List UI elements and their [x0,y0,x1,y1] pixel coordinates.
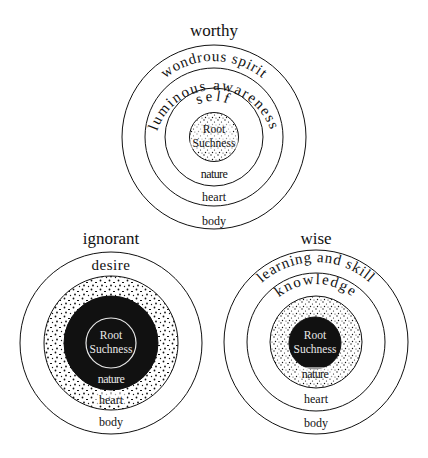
nature-label: nature [201,167,228,181]
knowledge-label: knowledge [271,271,360,300]
root-label: Root [203,123,226,135]
root-label: Root [100,329,123,341]
suchness-label: Suchness [193,137,236,149]
wondrous-spirit-label: wondrous spirit [158,48,271,81]
wise-diagram: wise learning and skill knowledge Root S… [224,229,408,434]
suchness-label: Suchness [294,343,337,355]
ignorant-title: ignorant [83,229,140,248]
concentric-circles-diagram: worthy wondrous spirit luminous awarenes… [0,0,428,458]
worthy-title: worthy [190,21,239,40]
desire-label: desire [92,257,131,273]
root-label: Root [304,329,327,341]
heart-label: heart [304,392,329,406]
worthy-diagram: worthy wondrous spirit luminous awarenes… [122,21,306,229]
body-label: body [202,214,226,228]
body-label: body [304,416,328,430]
nature-label: nature [302,367,329,381]
heart-label: heart [202,190,227,204]
heart-label: heart [99,393,124,407]
wise-title: wise [300,229,331,248]
body-label: body [99,415,123,429]
suchness-label: Suchness [90,343,133,355]
nature-label: nature [98,372,125,386]
self-label: self [193,88,235,108]
ignorant-diagram: ignorant desire Root Suchness nature hea… [20,229,202,434]
